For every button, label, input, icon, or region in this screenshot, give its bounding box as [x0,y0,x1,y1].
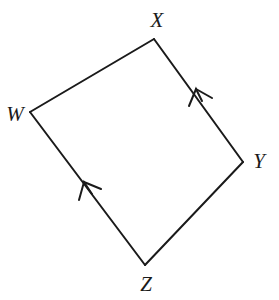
vertex-label-w: W [6,104,24,125]
edge-yz [145,162,243,265]
geometry-figure-quadrilateral-wxyz: X W Y Z [0,0,279,300]
quadrilateral-drawing-canvas [0,0,279,300]
vertex-label-z: Z [140,274,152,295]
vertex-label-y: Y [253,151,265,172]
vertex-label-x: X [151,10,164,31]
arrow-mark-on-edge-zw [79,182,101,200]
edge-xy [154,39,243,162]
edge-wx [30,39,154,112]
